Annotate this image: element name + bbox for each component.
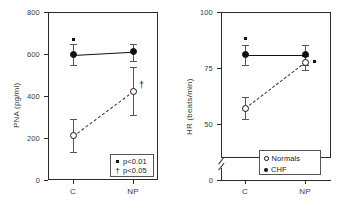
legend-entry-p001: p<0.01	[115, 157, 149, 166]
y-tick-label-400: 400	[18, 92, 40, 101]
error-cap-chf-np-bottom-pna	[130, 61, 137, 62]
x-tick-label-c-hr: C	[235, 187, 255, 196]
legend-label-normals: Normals	[272, 154, 301, 163]
data-point-normals-np-pna	[130, 88, 137, 95]
data-point-chf-np-hr	[302, 51, 309, 58]
error-cap-chf-c-bottom-hr	[242, 65, 249, 66]
y-axis-label-pna: PNA (pg/ml)	[12, 83, 21, 128]
error-cap-normals-np-top-pna	[130, 67, 137, 68]
data-point-chf-c-hr	[242, 51, 249, 58]
data-point-normals-c-pna	[70, 132, 77, 139]
x-axis-baseline-hr	[221, 180, 331, 181]
y-tick-label-50-hr: 50	[189, 120, 213, 129]
dagger-icon: †	[115, 167, 120, 175]
data-point-normals-c-hr	[242, 105, 249, 112]
panel-pna: PNA (pg/ml) 0 200 400 600 800	[0, 0, 171, 210]
y-tick-label-0: 0	[18, 176, 40, 185]
data-point-chf-c-pna	[70, 51, 77, 58]
open-circle-icon	[264, 156, 269, 161]
legend-dot-icon	[116, 160, 119, 163]
legend-label-p005: p<0.05	[123, 166, 147, 175]
error-cap-chf-np-top-hr	[302, 45, 309, 46]
data-point-normals-np-hr	[302, 59, 309, 66]
error-cap-chf-c-top-pna	[70, 44, 77, 45]
x-tick-mark-np-hr	[305, 180, 306, 184]
significance-dot-chf-c-pna	[72, 38, 75, 41]
error-cap-chf-c-top-hr	[242, 45, 249, 46]
x-tick-label-np-hr: NP	[295, 187, 315, 196]
error-cap-normals-c-bottom-hr	[242, 119, 249, 120]
error-cap-normals-c-top-pna	[70, 119, 77, 120]
legend-hr: Normals CHF	[259, 150, 321, 175]
y-axis-stub-hr	[221, 168, 222, 180]
y-tick-label-75-hr: 75	[189, 64, 213, 73]
significance-dagger-normals-np-pna: †	[139, 81, 144, 90]
y-tick-label-600: 600	[18, 50, 40, 59]
error-cap-chf-c-bottom-pna	[70, 65, 77, 66]
series-line-chf-hr	[245, 55, 305, 56]
error-cap-normals-c-bottom-pna	[70, 152, 77, 153]
data-point-chf-np-pna	[130, 48, 137, 55]
y-tick-mark-0	[44, 180, 48, 181]
x-tick-mark-np-pna	[133, 180, 134, 184]
panel-hr: HR (beats/min) 0 50 75 100	[171, 0, 342, 210]
filled-circle-icon	[264, 168, 268, 172]
error-cap-chf-np-top-pna	[130, 44, 137, 45]
x-tick-label-c-pna: C	[63, 187, 83, 196]
legend-label-chf: CHF	[271, 165, 287, 174]
significance-dot-chf-c-hr	[244, 37, 247, 40]
legend-label-p001: p<0.01	[123, 157, 147, 166]
error-cap-normals-np-bottom-pna	[130, 115, 137, 116]
legend-entry-normals: Normals	[264, 153, 316, 164]
x-tick-mark-c-pna	[73, 180, 74, 184]
significance-dot-normals-np-hr	[313, 60, 316, 63]
y-tick-label-0-hr: 0	[189, 176, 213, 185]
figure-two-panel-chart: PNA (pg/ml) 0 200 400 600 800	[0, 0, 342, 210]
error-cap-normals-c-top-hr	[242, 97, 249, 98]
legend-entry-chf: CHF	[264, 164, 316, 175]
x-tick-label-np-pna: NP	[123, 187, 143, 196]
x-tick-mark-c-hr	[245, 180, 246, 184]
legend-entry-p005: † p<0.05	[115, 166, 149, 175]
legend-pna: p<0.01 † p<0.05	[110, 154, 154, 177]
y-tick-label-100-hr: 100	[189, 8, 213, 17]
error-cap-normals-np-bottom-hr	[302, 70, 309, 71]
y-tick-label-800: 800	[18, 8, 40, 17]
y-tick-label-200: 200	[18, 134, 40, 143]
